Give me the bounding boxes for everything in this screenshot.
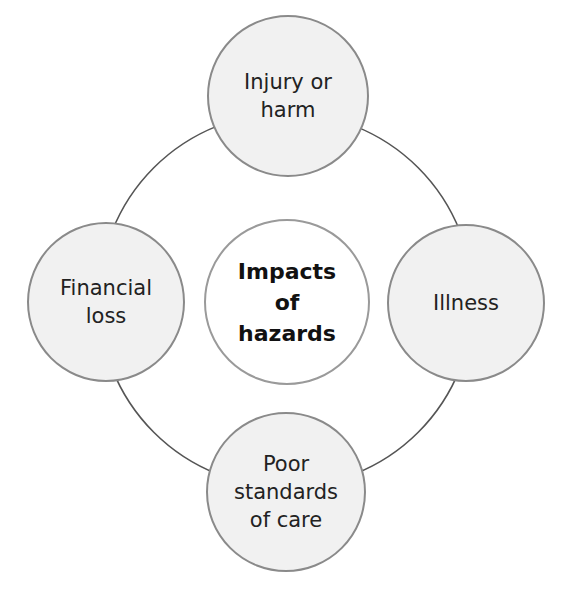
node-label: Poor standards of care <box>234 450 338 534</box>
node-injury-or-harm: Injury or harm <box>207 15 369 177</box>
node-poor-standards-of-care: Poor standards of care <box>206 412 366 572</box>
center-node-impacts-of-hazards: Impacts of hazards <box>204 219 370 385</box>
node-label: Financial loss <box>60 274 152 330</box>
node-financial-loss: Financial loss <box>27 222 185 382</box>
center-label: Impacts of hazards <box>238 256 336 349</box>
node-label: Illness <box>433 289 499 317</box>
node-illness: Illness <box>387 224 545 382</box>
node-label: Injury or harm <box>244 68 332 124</box>
